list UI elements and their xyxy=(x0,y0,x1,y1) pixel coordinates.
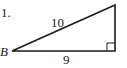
right-triangle-diagram: 1. 10 9 B xyxy=(0,0,127,68)
base-label: 9 xyxy=(63,52,70,67)
right-angle-marker xyxy=(107,43,115,51)
hypotenuse-label: 10 xyxy=(51,15,64,30)
vertex-b-label: B xyxy=(0,44,8,59)
problem-number: 1. xyxy=(1,5,11,20)
